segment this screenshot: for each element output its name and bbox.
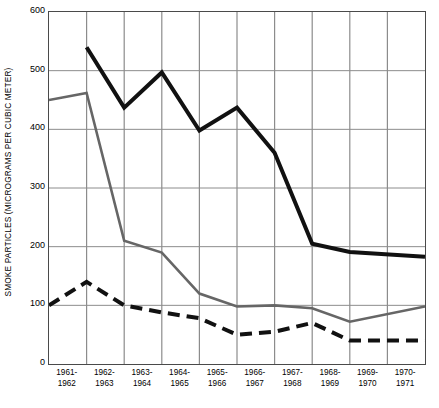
x-tick-label-line: 1969 — [311, 379, 349, 390]
series-line-black-solid — [87, 47, 425, 256]
x-tick-label: 1962-1963 — [86, 368, 124, 404]
x-tick-label-line: 1968 — [274, 379, 312, 390]
x-tick-label: 1967-1968 — [274, 368, 312, 404]
x-axis-tick-labels: 1961-19621962-19631963-19641964-19651965… — [48, 368, 424, 404]
x-tick-label-line: 1962 — [48, 379, 86, 390]
y-tick-label: 400 — [5, 123, 45, 132]
x-tick-label-line: 1966 — [198, 379, 236, 390]
x-tick-label: 1966-1967 — [236, 368, 274, 404]
x-tick-label: 1964-1965 — [161, 368, 199, 404]
x-tick-label: 1968-1969 — [311, 368, 349, 404]
x-tick-label-line: 1965 — [161, 379, 199, 390]
x-tick-label-line: 1963 — [86, 379, 124, 390]
x-tick-label-line: 1969- — [349, 368, 387, 379]
x-tick-label: 1961-1962 — [48, 368, 86, 404]
y-tick-label: 0 — [5, 358, 45, 367]
x-tick-label-line: 1968- — [311, 368, 349, 379]
y-tick-label: 200 — [5, 241, 45, 250]
y-tick-label: 600 — [5, 6, 45, 15]
y-tick-label: 500 — [5, 65, 45, 74]
chart-series-layer — [49, 12, 425, 364]
x-tick-label-line: 1967- — [274, 368, 312, 379]
x-tick-label-line: 1966- — [236, 368, 274, 379]
y-tick-label: 300 — [5, 182, 45, 191]
plot-area — [48, 11, 426, 365]
x-tick-label-line: 1962- — [86, 368, 124, 379]
x-tick-label-line: 1964- — [161, 368, 199, 379]
x-tick-label: 1969-1970 — [349, 368, 387, 404]
x-tick-label: 1963-1964 — [123, 368, 161, 404]
x-tick-label: 1965-1966 — [198, 368, 236, 404]
x-tick-label-line: 1965- — [198, 368, 236, 379]
x-tick-label-line: 1967 — [236, 379, 274, 390]
y-tick-label: 100 — [5, 299, 45, 308]
x-tick-label-line: 1963- — [123, 368, 161, 379]
x-tick-label-line: 1964 — [123, 379, 161, 390]
y-axis-tick-labels: 0100200300400500600 — [0, 0, 45, 408]
chart-container: SMOKE PARTICLES (MICROGRAMS PER CUBIC ME… — [0, 0, 439, 408]
x-tick-label-line: 1970 — [349, 379, 387, 390]
x-tick-label-line: 1971 — [386, 379, 424, 390]
series-line-gray-solid — [49, 93, 425, 322]
x-tick-label: 1970-1971 — [386, 368, 424, 404]
x-tick-label-line: 1961- — [48, 368, 86, 379]
x-tick-label-line: 1970- — [386, 368, 424, 379]
series-line-black-dashed — [49, 282, 425, 341]
